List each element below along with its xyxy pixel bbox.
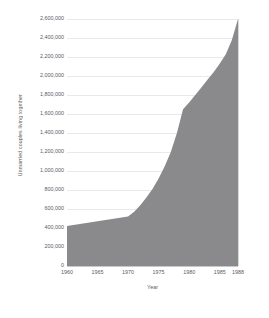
y-tick-label: 2,000,000 — [24, 73, 64, 78]
y-tick-label: 1,000,000 — [24, 168, 64, 173]
area-chart: Unmarried couples living together 0200,0… — [0, 0, 269, 318]
x-tick-label: 1970 — [122, 269, 134, 275]
y-tick-label: 800,000 — [24, 187, 64, 192]
y-tick-label: 200,000 — [24, 244, 64, 249]
x-tick-label: 1985 — [214, 269, 226, 275]
x-tick-label: 1960 — [61, 269, 73, 275]
y-axis-title-label: Unmarried couples living together — [17, 94, 23, 176]
y-tick-label: 2,600,000 — [24, 16, 64, 21]
x-tick-label: 1980 — [183, 269, 195, 275]
y-tick-label: 400,000 — [24, 225, 64, 230]
y-tick-label: 2,200,000 — [24, 54, 64, 59]
y-tick-label: 1,200,000 — [24, 149, 64, 154]
x-axis-title: Year — [67, 284, 238, 290]
y-axis-tick-labels: 0200,000400,000600,000800,0001,000,0001,… — [24, 16, 64, 266]
y-tick-label: 0 — [24, 263, 64, 268]
x-axis-line — [67, 266, 238, 267]
y-axis-line — [238, 19, 239, 266]
x-tick-label: 1975 — [153, 269, 165, 275]
x-axis-tick-labels: 1960196519701975198019851988 — [67, 269, 238, 279]
area-series-path — [67, 19, 238, 266]
x-tick-label: 1988 — [232, 269, 244, 275]
y-tick-label: 2,400,000 — [24, 35, 64, 40]
y-tick-label: 1,400,000 — [24, 130, 64, 135]
y-tick-label: 1,600,000 — [24, 111, 64, 116]
x-tick-label: 1965 — [92, 269, 104, 275]
y-tick-label: 1,800,000 — [24, 92, 64, 97]
area-fill — [67, 19, 238, 266]
y-tick-label: 600,000 — [24, 206, 64, 211]
plot-area — [67, 19, 238, 266]
